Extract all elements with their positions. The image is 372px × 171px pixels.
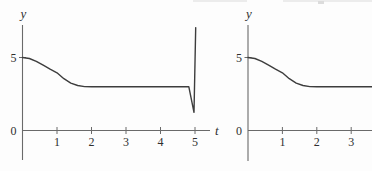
x-tick-label: 4 (158, 135, 164, 149)
y-tick-label: 0 (236, 124, 242, 138)
x-tick-label: 1 (54, 135, 60, 149)
x-tick-label: 1 (279, 135, 285, 149)
right-plot: 05123y (230, 0, 372, 171)
y-axis-label: y (244, 6, 252, 21)
x-tick-label: 5 (192, 135, 198, 149)
left-plot: 0512345yt (0, 0, 230, 171)
x-tick-label: 3 (348, 135, 354, 149)
x-tick-label: 3 (123, 135, 129, 149)
solution-curve (23, 28, 196, 113)
y-tick-label: 5 (11, 51, 17, 65)
y-axis-label: y (19, 6, 27, 21)
x-tick-label: 2 (314, 135, 320, 149)
y-tick-label: 0 (11, 124, 17, 138)
y-tick-label: 5 (236, 51, 242, 65)
x-axis-label: t (215, 123, 219, 138)
x-tick-label: 2 (89, 135, 95, 149)
solution-curve (248, 58, 372, 87)
figure: 0512345yt 05123y (0, 0, 372, 171)
